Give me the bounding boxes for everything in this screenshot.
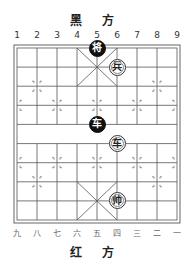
black-general-piece[interactable]: 将 [89,40,106,57]
column-label: 八 [30,227,44,238]
column-label: 六 [70,227,84,238]
column-label: 四 [110,227,124,238]
black-chariot-piece[interactable]: 车 [89,116,106,133]
bottom-side-label: 红 方 [0,243,192,260]
red-soldier-piece[interactable]: 兵 [109,59,126,76]
column-label: 一 [170,227,184,238]
column-label: 五 [90,227,104,238]
column-label: 三 [130,227,144,238]
column-label: 九 [10,227,24,238]
column-label: 七 [50,227,64,238]
red-chariot-piece[interactable]: 车 [109,135,126,152]
column-label: 二 [150,227,164,238]
red-general-piece[interactable]: 帅 [109,192,126,209]
bottom-column-labels: 九 八 七 六 五 四 三 二 一 [0,227,192,239]
